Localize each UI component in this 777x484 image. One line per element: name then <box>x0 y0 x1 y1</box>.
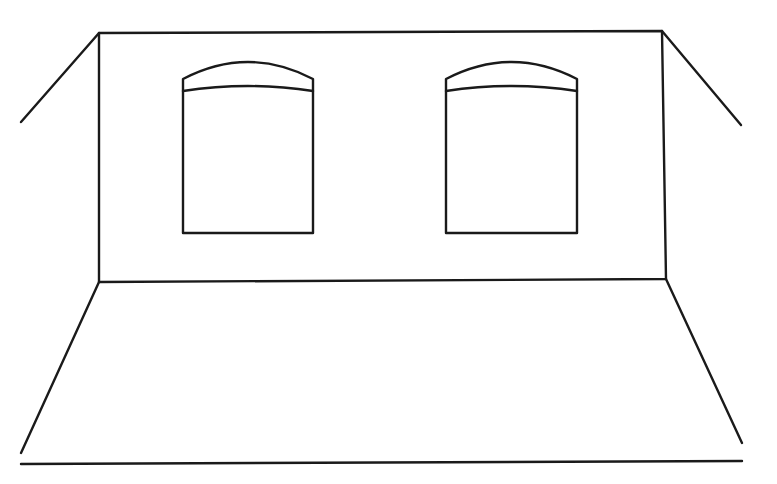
left-ceiling-edge <box>21 33 99 122</box>
right-window <box>446 62 577 233</box>
left-window <box>183 62 313 233</box>
room-drawing <box>0 0 777 484</box>
window-transom-line <box>183 86 313 91</box>
right-floor-edge <box>666 279 742 443</box>
windows <box>183 62 577 233</box>
window-transom-line <box>446 86 577 91</box>
right-ceiling-edge <box>662 31 741 125</box>
left-floor-edge <box>21 282 99 453</box>
floor-front-edge <box>21 461 742 464</box>
room-outline <box>21 31 742 464</box>
